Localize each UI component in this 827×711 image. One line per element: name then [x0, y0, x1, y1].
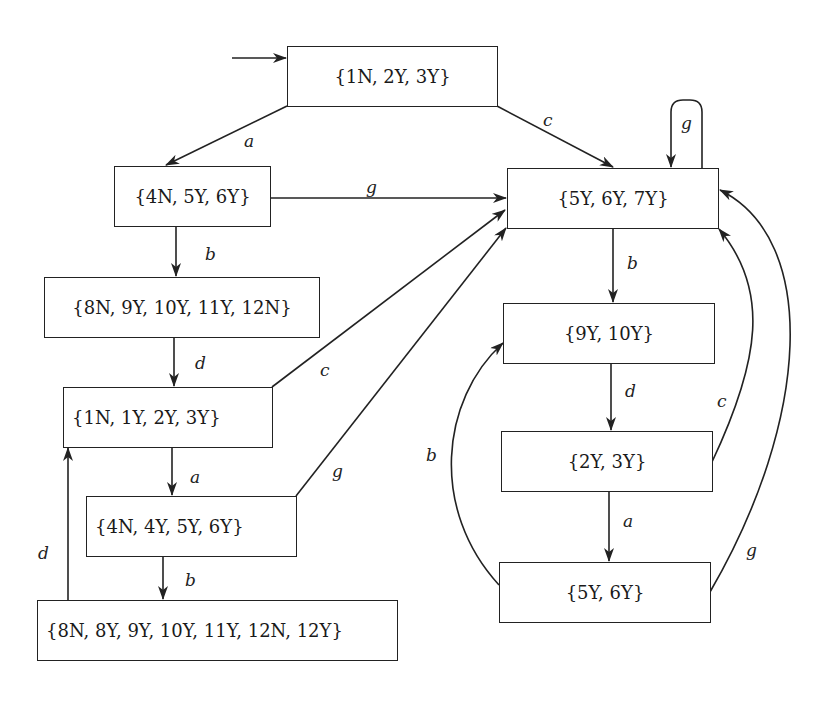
- edge-label-s7-s9: b: [185, 570, 196, 590]
- edge-label-s9-s4: d: [38, 543, 49, 563]
- state-s9[interactable]: {8N, 8Y, 9Y, 10Y, 11Y, 12N, 12Y}: [37, 600, 398, 661]
- edge-label-s4-s2: c: [320, 360, 330, 380]
- edge-label-s8-s2: g: [746, 540, 757, 560]
- edge-s6-s2: [712, 229, 753, 462]
- edge-label-s0-s1: a: [244, 131, 254, 151]
- edge-label-s0-s2: c: [543, 110, 553, 130]
- edge-label-s6-s2: c: [717, 391, 727, 411]
- edge-label-s6-s8: a: [623, 511, 633, 531]
- edge-label-s3-s4: d: [195, 353, 206, 373]
- edge-label-s2-s5: b: [627, 253, 638, 273]
- edge-s0-s1: [166, 106, 287, 165]
- edge-label-s7-s2: g: [332, 461, 343, 481]
- state-diagram: {1N, 2Y, 3Y} {4N, 5Y, 6Y} {5Y, 6Y, 7Y} {…: [0, 0, 827, 711]
- state-s6[interactable]: {2Y, 3Y}: [501, 431, 713, 492]
- state-s7[interactable]: {4N, 4Y, 5Y, 6Y}: [86, 496, 297, 557]
- edge-s8-s5: [451, 343, 503, 585]
- edge-label-s5-s6: d: [625, 381, 636, 401]
- state-s4[interactable]: {1N, 1Y, 2Y, 3Y}: [63, 387, 273, 448]
- edge-s0-s2: [497, 106, 613, 167]
- edge-label-s2-self: g: [681, 113, 692, 133]
- edge-label-s1-s2: g: [366, 177, 377, 197]
- edge-label-s8-s5: b: [426, 445, 437, 465]
- edge-label-s1-s3: b: [205, 244, 216, 264]
- state-s1[interactable]: {4N, 5Y, 6Y}: [114, 166, 271, 227]
- state-s2[interactable]: {5Y, 6Y, 7Y}: [507, 168, 719, 229]
- edge-label-s4-s7: a: [190, 467, 200, 487]
- state-s8[interactable]: {5Y, 6Y}: [499, 562, 711, 623]
- edge-s2-self: [671, 100, 702, 168]
- state-s5[interactable]: {9Y, 10Y}: [503, 303, 715, 364]
- state-s0[interactable]: {1N, 2Y, 3Y}: [287, 46, 498, 107]
- state-s3[interactable]: {8N, 9Y, 10Y, 11Y, 12N}: [44, 277, 320, 338]
